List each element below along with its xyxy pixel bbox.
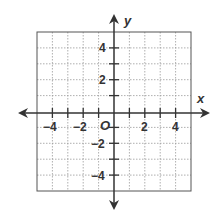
y-tick-label: 4 [99, 41, 106, 55]
y-axis-label: y [123, 13, 132, 28]
x-tick-label: 2 [141, 120, 148, 134]
y-tick-label: 2 [99, 73, 106, 87]
coordinate-plane: y x O −4 −2 2 4 4 2 −2 −4 [0, 0, 222, 219]
origin-label: O [100, 118, 110, 133]
y-tick-label: −4 [91, 169, 105, 183]
x-axis-label: x [196, 91, 205, 106]
x-tick-label: 4 [172, 120, 179, 134]
x-tick-label: −2 [73, 120, 87, 134]
x-tick-label: −4 [43, 120, 57, 134]
y-tick-label: −2 [91, 137, 105, 151]
